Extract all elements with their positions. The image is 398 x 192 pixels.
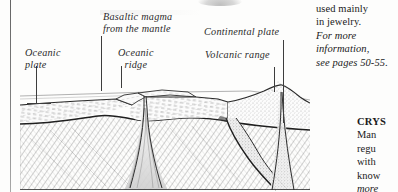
text-column-top-right: used mainly in jewelry. For more informa… bbox=[316, 2, 398, 69]
body-line: with bbox=[357, 155, 398, 168]
body-line: see pages 50-55. bbox=[316, 56, 398, 69]
body-line: Man bbox=[357, 128, 398, 141]
cropped-photo-fragment bbox=[198, 0, 242, 6]
leader-line-continental-plate bbox=[283, 40, 284, 123]
label-basaltic-magma: Basaltic magma from the mantle bbox=[103, 11, 172, 34]
body-line: For more bbox=[316, 29, 398, 42]
text-column-bottom-right: CRYS Man regu with know more page bbox=[357, 115, 398, 192]
body-line: information, bbox=[316, 42, 398, 55]
section-heading: CRYS bbox=[357, 115, 398, 128]
body-line: regu bbox=[357, 142, 398, 155]
leader-line-oceanic-plate bbox=[36, 66, 37, 104]
body-line: know bbox=[357, 169, 398, 182]
body-line: in jewelry. bbox=[316, 15, 398, 28]
label-oceanic-plate-line2: plate bbox=[25, 59, 61, 71]
leader-line-volcanic-range bbox=[274, 67, 275, 92]
label-oceanic-ridge-line2: ridge bbox=[118, 59, 154, 71]
label-volcanic-range: Volcanic range bbox=[205, 49, 270, 61]
label-basaltic-magma-line1: Basaltic magma bbox=[103, 11, 172, 23]
plate-tectonics-diagram bbox=[20, 78, 310, 192]
book-page: Basaltic magma from the mantle Continent… bbox=[0, 0, 398, 192]
label-continental-plate-line1: Continental plate bbox=[204, 26, 279, 38]
label-continental-plate: Continental plate bbox=[204, 26, 279, 38]
body-line: used mainly bbox=[316, 2, 398, 15]
leader-line-basaltic-magma bbox=[101, 36, 102, 91]
body-line: more bbox=[357, 182, 398, 192]
page-gutter-rule bbox=[10, 0, 11, 192]
label-oceanic-ridge: Oceanic ridge bbox=[118, 47, 154, 70]
label-oceanic-plate: Oceanic plate bbox=[25, 47, 61, 70]
label-oceanic-plate-line1: Oceanic bbox=[25, 47, 61, 59]
leader-line-oceanic-plate-h bbox=[27, 103, 51, 104]
label-volcanic-range-line1: Volcanic range bbox=[205, 49, 270, 61]
label-oceanic-ridge-line1: Oceanic bbox=[118, 47, 154, 59]
label-basaltic-magma-line2: from the mantle bbox=[103, 23, 172, 35]
